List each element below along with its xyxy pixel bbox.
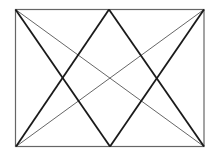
geometric-diagram bbox=[0, 0, 214, 157]
